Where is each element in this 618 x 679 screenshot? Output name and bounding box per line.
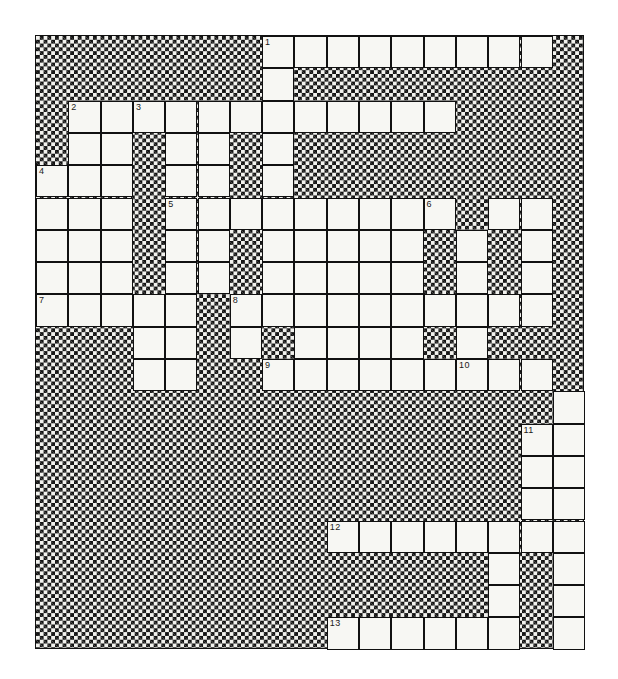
crossword-cell-open[interactable]	[488, 553, 520, 585]
crossword-cell-open[interactable]	[68, 262, 100, 294]
crossword-cell-open[interactable]	[327, 359, 359, 391]
crossword-cell-open[interactable]: 8	[230, 294, 262, 326]
crossword-cell-open[interactable]	[36, 198, 68, 230]
crossword-cell-open[interactable]	[553, 617, 585, 649]
crossword-cell-open[interactable]	[133, 327, 165, 359]
crossword-cell-open[interactable]	[36, 262, 68, 294]
crossword-cell-open[interactable]	[424, 36, 456, 68]
crossword-cell-open[interactable]	[521, 359, 553, 391]
crossword-cell-open[interactable]: 6	[424, 198, 456, 230]
crossword-cell-open[interactable]	[230, 327, 262, 359]
crossword-cell-open[interactable]	[359, 327, 391, 359]
crossword-cell-open[interactable]: 12	[327, 521, 359, 553]
crossword-cell-open[interactable]	[101, 198, 133, 230]
crossword-cell-open[interactable]	[391, 359, 423, 391]
crossword-cell-open[interactable]: 7	[36, 294, 68, 326]
crossword-cell-open[interactable]	[424, 101, 456, 133]
crossword-cell-open[interactable]	[165, 165, 197, 197]
crossword-cell-open[interactable]	[133, 294, 165, 326]
crossword-cell-open[interactable]	[198, 165, 230, 197]
crossword-cell-open[interactable]	[488, 521, 520, 553]
crossword-cell-open[interactable]	[101, 230, 133, 262]
crossword-cell-open[interactable]	[327, 230, 359, 262]
crossword-cell-open[interactable]	[294, 327, 326, 359]
crossword-cell-open[interactable]	[391, 521, 423, 553]
crossword-cell-open[interactable]	[391, 101, 423, 133]
crossword-cell-open[interactable]	[359, 359, 391, 391]
crossword-cell-open[interactable]	[198, 230, 230, 262]
crossword-cell-open[interactable]	[424, 359, 456, 391]
crossword-cell-open[interactable]	[456, 294, 488, 326]
crossword-cell-open[interactable]	[101, 133, 133, 165]
crossword-cell-open[interactable]	[424, 294, 456, 326]
crossword-cell-open[interactable]	[424, 521, 456, 553]
crossword-cell-open[interactable]: 13	[327, 617, 359, 649]
crossword-cell-open[interactable]	[262, 198, 294, 230]
crossword-cell-open[interactable]	[521, 198, 553, 230]
crossword-cell-open[interactable]	[488, 294, 520, 326]
crossword-cell-open[interactable]	[262, 68, 294, 100]
crossword-cell-open[interactable]	[456, 262, 488, 294]
crossword-cell-open[interactable]	[262, 133, 294, 165]
crossword-cell-open[interactable]	[359, 230, 391, 262]
crossword-cell-open[interactable]	[456, 617, 488, 649]
crossword-cell-open[interactable]	[553, 521, 585, 553]
crossword-cell-open[interactable]	[391, 294, 423, 326]
crossword-cell-open[interactable]	[101, 262, 133, 294]
crossword-cell-open[interactable]	[230, 101, 262, 133]
crossword-cell-open[interactable]	[424, 617, 456, 649]
crossword-cell-open[interactable]	[165, 359, 197, 391]
crossword-cell-open[interactable]	[456, 327, 488, 359]
crossword-cell-open[interactable]	[101, 101, 133, 133]
crossword-cell-open[interactable]	[553, 553, 585, 585]
crossword-cell-open[interactable]	[294, 101, 326, 133]
crossword-cell-open[interactable]	[294, 294, 326, 326]
crossword-cell-open[interactable]	[488, 359, 520, 391]
crossword-cell-open[interactable]	[198, 262, 230, 294]
crossword-cell-open[interactable]	[521, 521, 553, 553]
crossword-cell-open[interactable]	[359, 262, 391, 294]
crossword-cell-open[interactable]	[327, 262, 359, 294]
crossword-cell-open[interactable]	[488, 36, 520, 68]
crossword-cell-open[interactable]	[391, 327, 423, 359]
crossword-cell-open[interactable]	[391, 262, 423, 294]
crossword-cell-open[interactable]	[165, 294, 197, 326]
crossword-grid[interactable]: 12345678910111213	[35, 35, 584, 649]
crossword-cell-open[interactable]	[262, 230, 294, 262]
crossword-cell-open[interactable]	[359, 294, 391, 326]
crossword-cell-open[interactable]	[391, 617, 423, 649]
crossword-cell-open[interactable]	[165, 101, 197, 133]
crossword-cell-open[interactable]	[521, 230, 553, 262]
crossword-cell-open[interactable]: 4	[36, 165, 68, 197]
crossword-cell-open[interactable]	[165, 327, 197, 359]
crossword-cell-open[interactable]	[294, 262, 326, 294]
crossword-cell-open[interactable]	[327, 101, 359, 133]
crossword-cell-open[interactable]	[521, 488, 553, 520]
crossword-cell-open[interactable]	[391, 198, 423, 230]
crossword-cell-open[interactable]	[521, 36, 553, 68]
crossword-cell-open[interactable]	[262, 165, 294, 197]
crossword-cell-open[interactable]	[294, 230, 326, 262]
crossword-cell-open[interactable]	[391, 230, 423, 262]
crossword-cell-open[interactable]	[553, 391, 585, 423]
crossword-cell-open[interactable]	[456, 36, 488, 68]
crossword-cell-open[interactable]	[359, 617, 391, 649]
crossword-cell-open[interactable]	[68, 294, 100, 326]
crossword-cell-open[interactable]	[198, 133, 230, 165]
crossword-cell-open[interactable]: 1	[262, 36, 294, 68]
crossword-cell-open[interactable]: 9	[262, 359, 294, 391]
crossword-cell-open[interactable]	[262, 262, 294, 294]
crossword-cell-open[interactable]	[165, 230, 197, 262]
crossword-cell-open[interactable]	[327, 198, 359, 230]
crossword-cell-open[interactable]	[359, 101, 391, 133]
crossword-cell-open[interactable]	[488, 585, 520, 617]
crossword-cell-open[interactable]	[198, 198, 230, 230]
crossword-cell-open[interactable]	[553, 488, 585, 520]
crossword-cell-open[interactable]	[68, 133, 100, 165]
crossword-cell-open[interactable]	[101, 294, 133, 326]
crossword-cell-open[interactable]	[456, 521, 488, 553]
crossword-cell-open[interactable]	[488, 198, 520, 230]
crossword-cell-open[interactable]	[294, 36, 326, 68]
crossword-cell-open[interactable]	[68, 230, 100, 262]
crossword-cell-open[interactable]	[36, 230, 68, 262]
